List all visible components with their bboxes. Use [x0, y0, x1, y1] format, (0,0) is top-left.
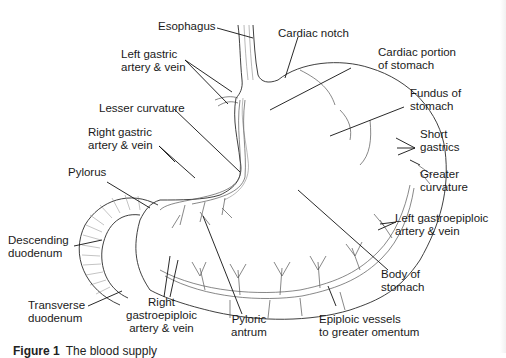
label-cardiac-notch: Cardiac notch — [278, 27, 349, 40]
figure-caption: Figure 1The blood supply — [13, 344, 157, 358]
label-right-gastroepiploic: Rightgastroepiploicartery & vein — [126, 296, 197, 335]
label-descending-duodenum: Descendingduodenum — [8, 234, 69, 260]
label-greater-curvature: Greatercurvature — [420, 168, 468, 194]
label-epiploic-vessels: Epiploic vesselsto greater omentum — [319, 313, 419, 339]
label-short-gastrics: Shortgastrics — [420, 128, 460, 154]
label-body-of-stomach: Body ofstomach — [381, 268, 424, 294]
label-right-gastric: Right gastricartery & vein — [88, 126, 153, 152]
label-cardiac-portion: Cardiac portionof stomach — [378, 46, 456, 72]
figure-caption-text: The blood supply — [66, 344, 157, 358]
label-lesser-curvature: Lesser curvature — [99, 102, 185, 115]
label-pyloric-antrum: Pyloricantrum — [231, 313, 267, 339]
label-pylorus: Pylorus — [68, 166, 106, 179]
label-fundus: Fundus ofstomach — [410, 87, 461, 113]
label-transverse-duodenum: Transverseduodenum — [28, 299, 85, 325]
page-edge-shadow — [500, 0, 506, 353]
figure-caption-label: Figure 1 — [13, 344, 60, 358]
label-esophagus: Esophagus — [158, 20, 216, 33]
label-left-gastric: Left gastricartery & vein — [121, 48, 186, 74]
label-left-gastroepiploic: Left gastroepiploicartery & vein — [395, 212, 488, 238]
